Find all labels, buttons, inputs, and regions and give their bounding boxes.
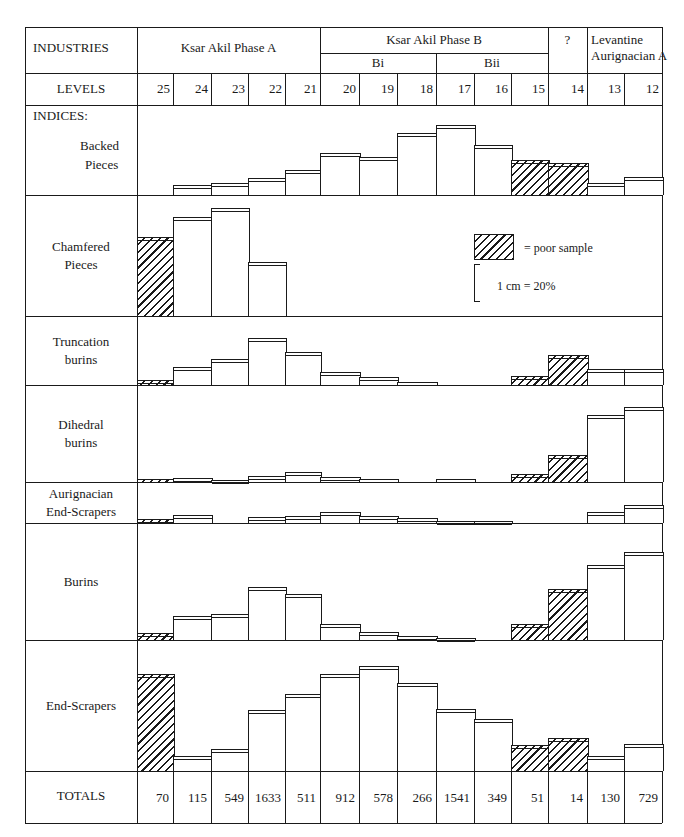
- aurignacian-end-scrapers-bar-level-16: [474, 521, 513, 523]
- level-number: 12: [624, 81, 662, 97]
- phase-bii-label: Bii: [436, 55, 548, 71]
- backed-pieces-bar-level-13: [587, 183, 626, 195]
- dihedral-burins-bar-level-19: [359, 479, 399, 482]
- end-scrapers-bar-level-20: [320, 674, 361, 771]
- phase-bi-label: Bi: [320, 55, 436, 71]
- total-value: 511: [285, 790, 316, 806]
- burins-bar-level-20: [320, 624, 361, 640]
- scale-legend-label: 1 cm = 20%: [497, 278, 555, 294]
- phase-b-label: Ksar Akil Phase B: [320, 32, 548, 48]
- total-value: 912: [320, 790, 355, 806]
- phase-a-label: Ksar Akil Phase A: [137, 40, 320, 56]
- level-number: 22: [248, 81, 285, 97]
- phase-b-subdivider: [320, 53, 548, 54]
- totals-label: TOTALS: [25, 788, 137, 804]
- truncation-burins-bar-level-22: [248, 338, 287, 385]
- burins-bar-level-12: [624, 552, 664, 640]
- total-value: 70: [137, 790, 169, 806]
- truncation-burins-bar-level-15: [511, 376, 550, 385]
- series-label: Burins: [25, 574, 137, 590]
- series-label: End-Scrapers: [25, 698, 137, 714]
- aurignacian-end-scrapers-bar-level-19: [359, 516, 399, 523]
- end-scrapers-bar-level-18: [397, 683, 438, 771]
- aurignacian-end-scrapers-bar-level-25: [137, 519, 175, 523]
- dihedral-burins-bar-level-21: [285, 472, 322, 482]
- aurignacian-end-scrapers-bar-level-18: [397, 518, 438, 523]
- end-scrapers-bar-level-23: [211, 749, 250, 771]
- truncation-burins-bar-level-14: [548, 355, 589, 385]
- backed-pieces-bar-level-19: [359, 157, 399, 195]
- chamfered-pieces-bar-level-22: [248, 262, 287, 316]
- section-divider: [25, 195, 662, 196]
- series-label-line2: End-Scrapers: [25, 504, 137, 520]
- level-number: 14: [548, 81, 587, 97]
- dihedral-burins-bar-level-22: [248, 476, 287, 482]
- aurignacian-end-scrapers-bar-level-13: [587, 512, 626, 523]
- end-scrapers-bar-level-16: [474, 719, 513, 771]
- indices-label: INDICES:: [33, 108, 88, 124]
- aurignacian-end-scrapers-bar-level-17: [436, 521, 476, 523]
- level-number: 25: [137, 81, 173, 97]
- dihedral-burins-bar-level-17: [436, 479, 476, 482]
- dihedral-burins-bar-level-13: [587, 415, 626, 482]
- group-divider: [587, 27, 588, 73]
- dihedral-burins-bar-level-20: [320, 477, 361, 482]
- dihedral-burins-bar-level-24: [173, 478, 213, 482]
- series-label-line2: burins: [25, 352, 137, 368]
- burins-bar-level-17: [436, 638, 476, 640]
- backed-pieces-bar-level-20: [320, 153, 361, 195]
- burins-bar-level-15: [511, 624, 550, 640]
- total-value: 1541: [436, 790, 470, 806]
- total-value: 130: [587, 790, 620, 806]
- backed-pieces-bar-level-12: [624, 177, 664, 195]
- series-label-line2: Pieces: [25, 257, 137, 273]
- end-scrapers-bar-level-24: [173, 756, 213, 771]
- end-scrapers-bar-level-14: [548, 738, 589, 771]
- total-value: 349: [474, 790, 507, 806]
- dihedral-burins-bar-level-23: [211, 480, 250, 482]
- backed-pieces-bar-level-18: [397, 133, 438, 195]
- total-value: 266: [397, 790, 432, 806]
- unknown-phase-label: ?: [548, 32, 587, 48]
- total-value: 1633: [248, 790, 281, 806]
- total-value: 115: [173, 790, 207, 806]
- levels-label: LEVELS: [25, 81, 137, 97]
- aurignacian-end-scrapers-bar-level-22: [248, 517, 287, 523]
- end-scrapers-bar-level-17: [436, 709, 476, 771]
- burins-bar-level-25: [137, 633, 175, 640]
- dihedral-burins-bar-level-15: [511, 474, 550, 482]
- burins-bar-level-18: [397, 636, 438, 640]
- end-scrapers-bar-level-25: [137, 674, 175, 771]
- level-number: 19: [359, 81, 397, 97]
- total-value: 578: [359, 790, 393, 806]
- truncation-burins-bar-level-25: [137, 380, 175, 385]
- truncation-burins-bar-level-20: [320, 372, 361, 385]
- total-value: 51: [511, 790, 544, 806]
- aurignacian-end-scrapers-bar-level-24: [173, 515, 213, 523]
- end-scrapers-bar-level-13: [587, 756, 626, 771]
- series-label-line2: Pieces: [85, 157, 118, 173]
- level-number: 20: [320, 81, 359, 97]
- section-divider: [25, 482, 662, 483]
- total-value: 549: [211, 790, 244, 806]
- backed-pieces-bar-level-23: [211, 183, 250, 195]
- table-top-border: [25, 27, 662, 28]
- dihedral-burins-bar-level-12: [624, 407, 664, 482]
- series-label-line1: Chamfered: [25, 239, 137, 255]
- levels-divider: [25, 105, 662, 106]
- section-divider: [25, 640, 662, 641]
- aurignacian-end-scrapers-bar-level-21: [285, 516, 322, 523]
- backed-pieces-bar-level-21: [285, 170, 322, 195]
- section-divider: [25, 385, 662, 386]
- series-label-line1: Aurignacian: [25, 486, 137, 502]
- poor-sample-legend-label: = poor sample: [524, 240, 593, 256]
- levantine-label-line2: Aurignacian A: [591, 48, 667, 64]
- end-scrapers-bar-level-15: [511, 745, 550, 771]
- level-number: 21: [285, 81, 320, 97]
- backed-pieces-bar-level-24: [173, 185, 213, 195]
- truncation-burins-bar-level-23: [211, 359, 250, 385]
- backed-pieces-bar-level-16: [474, 145, 513, 195]
- burins-bar-level-22: [248, 587, 287, 640]
- header-divider: [25, 73, 662, 74]
- level-number: 15: [511, 81, 548, 97]
